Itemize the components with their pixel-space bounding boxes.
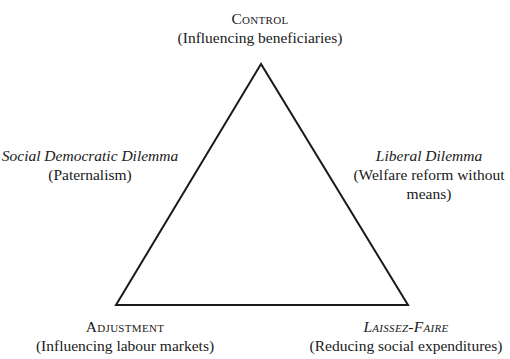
liberal-subtitle-line2: means): [344, 184, 510, 203]
laissez-faire-title: Laissez-Faire: [300, 317, 510, 336]
liberal-subtitle-line1: (Welfare reform without: [344, 165, 510, 184]
control-subtitle: (Influencing beneficiaries): [170, 28, 350, 47]
adjustment-title: Adjustment: [30, 317, 220, 336]
vertex-control-label: Control (Influencing beneficiaries): [170, 9, 350, 47]
edge-social-democratic-label: Social Democratic Dilemma (Paternalism): [0, 146, 180, 184]
adjustment-subtitle: (Influencing labour markets): [30, 336, 220, 355]
liberal-title: Liberal Dilemma: [344, 146, 510, 165]
vertex-adjustment-label: Adjustment (Influencing labour markets): [30, 317, 220, 355]
vertex-laissez-faire-label: Laissez-Faire (Reducing social expenditu…: [300, 317, 510, 355]
social-democratic-subtitle: (Paternalism): [0, 165, 180, 184]
control-title: Control: [170, 9, 350, 28]
social-democratic-title: Social Democratic Dilemma: [0, 146, 180, 165]
laissez-faire-subtitle: (Reducing social expenditures): [300, 336, 510, 355]
edge-liberal-label: Liberal Dilemma (Welfare reform without …: [344, 146, 510, 203]
